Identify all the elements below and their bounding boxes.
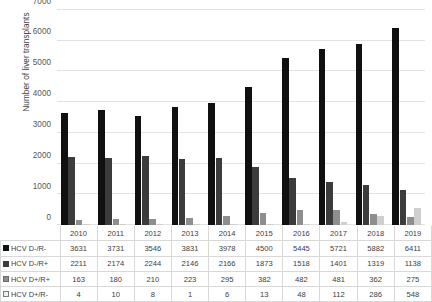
table-cell: 2211 [60,256,97,271]
bar-group [315,10,352,225]
bar [142,156,149,225]
bar [377,216,384,225]
table-header-row: 2010201120122013201420152016201720182019 [1,226,432,241]
table-cell: 382 [246,271,283,286]
y-axis-tick-label: 7000 [33,0,51,5]
table-column-header: 2014 [209,226,246,241]
filled-black-square-icon [3,245,9,251]
bar-group [57,10,94,225]
table-cell: 2174 [97,256,134,271]
table-cell: 4 [60,287,97,302]
y-axis-tick-label: 0 [46,212,51,221]
table-column-header: 2012 [134,226,171,241]
bar [208,103,215,225]
y-axis-tick-label: 1000 [33,181,51,190]
bar [333,210,340,225]
table-cell: 8 [134,287,171,302]
table-cell: 362 [357,271,394,286]
legend-row-header: HCV D-/R+ [1,256,61,271]
bar [370,214,377,225]
bar-group [204,10,241,225]
y-axis-tick-label: 4000 [33,89,51,98]
legend-label: HCV D-/R- [11,244,46,253]
bar [113,219,120,225]
bar-group [241,10,278,225]
table-row: HCV D+/R+163180210223295382482481362275 [1,271,432,286]
bar [289,178,296,225]
bar [216,158,223,225]
table-cell: 275 [394,271,431,286]
filled-dark-gray-square-icon [3,261,9,267]
table-cell: 1319 [357,256,394,271]
bar [157,224,164,225]
table-cell: 3631 [60,241,97,256]
table-cell: 1518 [283,256,320,271]
table-cell: 2146 [171,256,208,271]
bar [186,218,193,225]
table-cell: 10 [97,287,134,302]
table-cell: 5882 [357,241,394,256]
table-cell: 223 [171,271,208,286]
y-axis-tick-label: 2000 [33,150,51,159]
table-cell: 3731 [97,241,134,256]
bar [363,185,370,226]
bar [392,28,399,225]
bar-group [131,10,168,225]
bar [120,224,127,225]
bar-group [94,10,131,225]
bar [260,213,267,225]
table-cell: 163 [60,271,97,286]
table-column-header: 2018 [357,226,394,241]
bar [193,224,200,225]
bar [407,217,414,225]
table-cell: 112 [320,287,357,302]
table-column-header: 2016 [283,226,320,241]
plot-area: 01000200030004000500060007000 [57,10,425,225]
table-cell: 1138 [394,256,431,271]
bar [245,87,252,225]
table-row: HCV D-/R-3631373135463831397845005445572… [1,241,432,256]
bar [149,219,156,225]
table-cell: 2244 [134,256,171,271]
bar [414,208,421,225]
table-cell: 48 [283,287,320,302]
legend-row-header: HCV D-/R- [1,241,61,256]
bar-group [388,10,425,225]
filled-gray-square-icon [3,276,9,282]
bar [179,159,186,225]
bar [223,216,230,225]
y-axis-tick-label: 3000 [33,119,51,128]
bar [230,224,237,225]
table-cell: 1 [171,287,208,302]
table-cell: 2166 [209,256,246,271]
table-row: HCV D+/R-4108161348112286548 [1,287,432,302]
bar [105,158,112,225]
bar-group [278,10,315,225]
y-axis-tick-label: 5000 [33,58,51,67]
table-cell: 3831 [171,241,208,256]
table-cell: 1401 [320,256,357,271]
table-cell: 4500 [246,241,283,256]
bar [282,58,289,225]
bar [83,224,90,225]
bar [135,116,142,225]
table-cell: 286 [357,287,394,302]
table-column-header: 2017 [320,226,357,241]
table-cell: 3546 [134,241,171,256]
bar [400,190,407,225]
legend-label: HCV D+/R+ [11,275,50,284]
legend-label: HCV D-/R+ [11,259,48,268]
bar [319,49,326,225]
bar [172,107,179,225]
bar [297,210,304,225]
table-cell: 5445 [283,241,320,256]
table-cell: 180 [97,271,134,286]
y-axis-tick-label: 6000 [33,27,51,36]
table-cell: 482 [283,271,320,286]
table-cell: 1873 [246,256,283,271]
bar [304,224,311,225]
bar-group [351,10,388,225]
legend-row-header: HCV D+/R+ [1,271,61,286]
bar [326,182,333,225]
